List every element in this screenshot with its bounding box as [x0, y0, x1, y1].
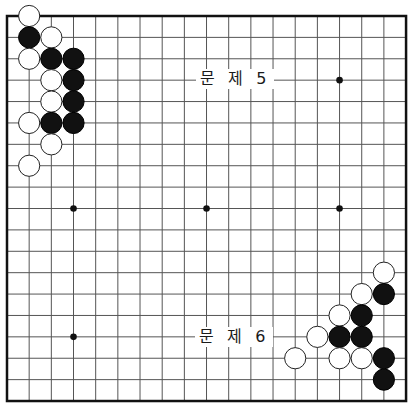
white-stone[interactable]: [41, 27, 62, 48]
white-stone[interactable]: [19, 155, 40, 176]
white-stone[interactable]: [329, 348, 350, 369]
black-stone[interactable]: [63, 70, 84, 91]
white-stone[interactable]: [373, 262, 394, 283]
white-stone[interactable]: [19, 48, 40, 69]
star-point: [70, 205, 77, 212]
black-stone[interactable]: [63, 48, 84, 69]
white-stone[interactable]: [351, 348, 372, 369]
black-stone[interactable]: [373, 369, 394, 390]
white-stone[interactable]: [41, 91, 62, 112]
black-stone[interactable]: [19, 27, 40, 48]
star-point: [203, 205, 210, 212]
star-point: [70, 334, 77, 341]
black-stone[interactable]: [41, 112, 62, 133]
go-board: [0, 0, 409, 411]
white-stone[interactable]: [285, 348, 306, 369]
white-stone[interactable]: [41, 134, 62, 155]
black-stone[interactable]: [41, 48, 62, 69]
black-stone[interactable]: [373, 283, 394, 304]
white-stone[interactable]: [19, 5, 40, 26]
white-stone[interactable]: [351, 283, 372, 304]
black-stone[interactable]: [351, 326, 372, 347]
white-stone[interactable]: [329, 305, 350, 326]
black-stone[interactable]: [329, 326, 350, 347]
star-point: [336, 205, 343, 212]
problem-5-label: 문 제 5: [196, 69, 274, 89]
white-stone[interactable]: [19, 112, 40, 133]
problem-6-label: 문 제 6: [195, 327, 273, 347]
white-stone[interactable]: [41, 70, 62, 91]
white-stone[interactable]: [307, 326, 328, 347]
black-stone[interactable]: [373, 348, 394, 369]
black-stone[interactable]: [63, 112, 84, 133]
black-stone[interactable]: [351, 305, 372, 326]
star-point: [336, 77, 343, 84]
black-stone[interactable]: [63, 91, 84, 112]
